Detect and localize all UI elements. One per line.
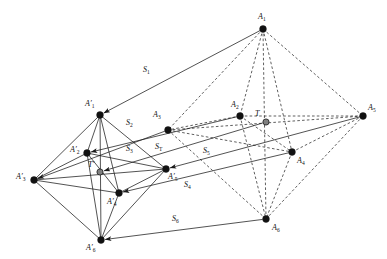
dashed-edge-A4-A6 (266, 152, 292, 219)
solid-edge-A1p-A2p (87, 115, 100, 153)
vertex-A6p[interactable] (98, 237, 105, 244)
vertex-A4[interactable] (289, 149, 296, 156)
vertex-Tp[interactable] (97, 169, 103, 175)
vertex-A4p[interactable] (116, 190, 123, 197)
translation-label-S1: S1 (143, 66, 150, 74)
translation-arrows (38, 31, 360, 240)
dashed-edge-A1-A3 (168, 29, 263, 130)
vertex-label-A3: A3 (153, 111, 161, 119)
vertex-A5[interactable] (360, 113, 367, 120)
dashed-edge-A3-A4 (168, 130, 292, 152)
dashed-edge-A2-A6 (240, 116, 266, 219)
diagram-canvas: A1A2A3A4A5A6TA′1A′2A′3A′4A′5A′6T′S1S2S3S… (0, 0, 387, 259)
dashed-edge-A1-A5 (263, 29, 363, 116)
solid-octahedron-edges (34, 115, 166, 240)
dashed-edge-A1-A4 (263, 29, 292, 152)
vertex-label-Tp: T′ (88, 161, 94, 169)
vertex-label-A5: A5 (368, 104, 376, 112)
dashed-edge-A5-A6 (266, 116, 363, 219)
vertex-label-A1: A1 (258, 13, 266, 21)
vertex-label-A6: A6 (272, 224, 280, 232)
vertex-markers (31, 26, 367, 244)
vertex-label-A3p: A′3 (16, 173, 25, 181)
translation-label-ST: ST (155, 143, 162, 151)
vertex-A1[interactable] (260, 26, 267, 33)
vertex-label-T: T (255, 110, 259, 118)
vertex-label-A4: A4 (297, 157, 305, 165)
dashed-edge-A1-A2 (240, 29, 263, 116)
vertex-label-A5p: A′5 (168, 173, 177, 181)
translation-label-S4: S4 (184, 181, 191, 189)
vertex-A2p[interactable] (84, 150, 91, 157)
dashed-edge-A3-A6 (168, 130, 266, 219)
translation-arrow-S6 (105, 219, 262, 239)
translation-label-S3: S3 (126, 145, 133, 153)
translation-arrow-S2 (91, 117, 237, 152)
vertex-label-A4p: A′4 (107, 198, 116, 206)
vertex-label-A6p: A′6 (86, 244, 95, 252)
vertex-label-A1p: A′1 (85, 100, 94, 108)
vertex-A6[interactable] (263, 216, 270, 223)
translation-label-S5: S5 (203, 147, 210, 155)
dashed-edge-A4-A5 (292, 116, 363, 152)
vertex-A3p[interactable] (31, 177, 38, 184)
translation-arrow-S4 (123, 153, 289, 192)
vertex-A3[interactable] (165, 127, 172, 134)
vertex-A1p[interactable] (97, 112, 104, 119)
solid-edge-A1p-A6p (100, 115, 101, 240)
vertex-A2[interactable] (237, 113, 244, 120)
translation-label-S6: S6 (172, 215, 179, 223)
octahedra-diagram-svg (0, 0, 387, 259)
vertex-label-A2p: A′2 (70, 146, 79, 154)
vertex-label-A2: A2 (231, 101, 239, 109)
vertex-T[interactable] (263, 119, 269, 125)
translation-label-S2: S2 (126, 119, 133, 127)
